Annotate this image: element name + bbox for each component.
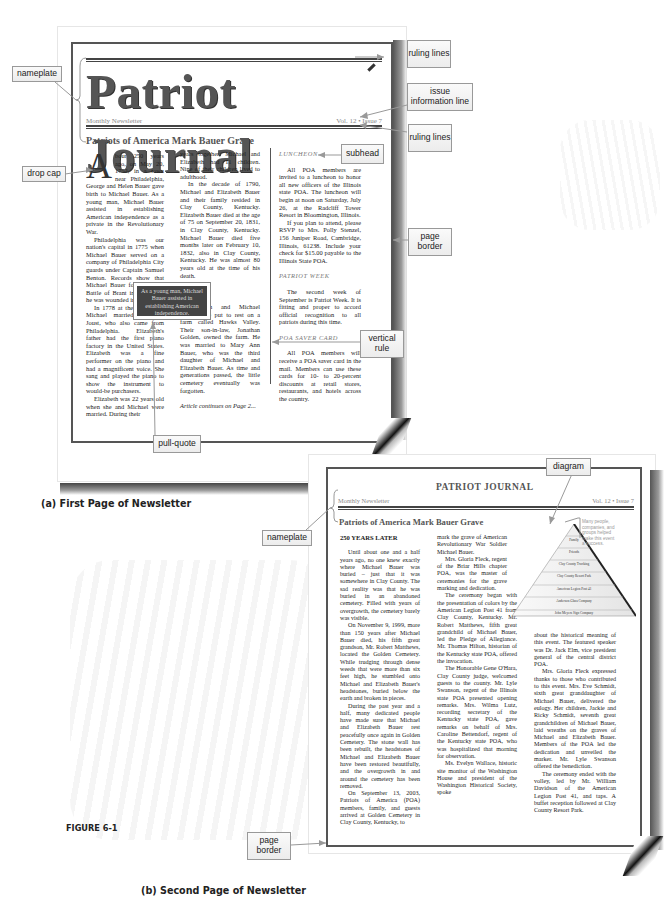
paragraph: About 250 years ago, on May 20, 1752, in… [86,152,164,236]
page-2-headline: Patriots of America Mark Bauer Grave [339,517,483,527]
callout-issue-information-line: issue information line [407,83,473,111]
paragraph: On September 13, 2003, Patriots of Ameri… [340,790,420,826]
callout-ruling-lines-top: ruling lines [407,40,451,68]
ruling-lines-bottom [86,125,382,129]
caption-first-page: (a) First Page of Newsletter [41,498,191,509]
paragraph: Mrs. Gloria Fleck, regent of the Briar H… [437,556,507,592]
page-2-shadow [650,470,664,850]
pyramid-labels: Family Friends Clay County Trucking Clay… [512,524,636,620]
paragraph: If you plan to attend, please RSVP to Mr… [279,219,361,265]
page-1-shadow [393,40,407,440]
page-2-column-3: about the historical meaning of this eve… [534,632,616,814]
paragraph: The second week of September is Patriot … [279,288,361,326]
page-2-title: PATRIOT JOURNAL [436,482,534,492]
figure-label: FIGURE 6-1 [66,823,118,833]
pyramid-level: Anderson Glass Company [512,599,636,603]
paragraph: mark the grave of American Revolutionary… [437,534,507,556]
pyramid-level: Friends [512,550,636,554]
callout-diagram: diagram [546,458,591,476]
paragraph: Until about one and a half years ago, no… [340,549,420,622]
issue-right: Vol. 12 • Issue 7 [336,117,382,125]
paragraph: years together, Michael and Elizabeth ha… [180,150,260,180]
page-1-column-2: years together, Michael and Elizabeth ha… [180,150,260,410]
paragraph: All POA members are invited to a luncheo… [279,166,361,219]
callout-pull-quote: pull-quote [153,435,201,453]
paragraph: On November 9, 1999, more than 150 years… [340,622,420,702]
issue-left: Monthly Newsletter [86,117,142,125]
pyramid-level: Clay County Trucking [512,562,636,566]
headline: Patriots of America Mark Bauer Grave [86,135,254,146]
pyramid-level: Clay County Resort Park [512,574,636,578]
pyramid-level: Family [512,538,636,542]
page-2-ruling-lines [338,506,634,510]
paragraph: about the historical meaning of this eve… [534,632,616,668]
page-1-column-3: LUNCHEON All POA members are invited to … [279,148,361,403]
pyramid-level: John Meyers Sign Company [512,611,636,615]
issue-left: Monthly Newsletter [338,497,389,504]
paragraph: In the decade of 1790, Michael and Eliza… [180,180,260,279]
callout-page-border: page border [408,228,452,256]
page-2-column-2: mark the grave of American Revolutionary… [437,534,517,797]
callout-nameplate-2: nameplate [262,530,312,546]
subhead-saver-card: POA SAVER CARD [279,334,361,342]
vertical-rule [270,148,271,384]
paragraph: Mrs. Gloria Fleck expressed thanks to th… [534,668,616,770]
drop-cap: A [86,152,112,180]
paragraph: All POA members will receive a POA saver… [279,349,361,402]
paragraph: The Honorable Gene O'Hara, Clay County j… [437,665,517,760]
callout-nameplate: nameplate [12,66,62,82]
subhead-patriot-week: PATRIOT WEEK [279,272,361,280]
callout-vertical-rule: vertical rule [360,330,404,358]
subhead-250-years: 250 YEARS LATER [340,534,420,541]
page-1-shadow [60,483,330,495]
background-flag-image [560,120,660,230]
paragraph: Ms. Evelyn Wallace, historic site monito… [437,760,517,796]
paragraph: The ceremony ended with the volley, led … [534,771,616,815]
callout-subhead: subhead [341,144,384,164]
continued-note: Article continues on Page 2... [180,402,260,410]
pull-quote: As a young man, Michael Bauer assisted i… [133,282,211,320]
issue-right: Vol. 12 • Issue 7 [592,497,634,504]
caption-second-page: (b) Second Page of Newsletter [141,885,306,896]
pyramid-level: American Legion Post 41 [512,587,636,591]
paragraph: During the past year and a half, many de… [340,703,420,791]
page-2-column-1: 250 YEARS LATER Until about one and a ha… [340,534,420,827]
callout-page-border-2: page border [247,832,291,860]
callout-drop-cap: drop cap [22,166,66,182]
nameplate-title: Patriot Journal [86,60,382,124]
callout-ruling-lines-bottom: ruling lines [408,124,452,152]
paragraph: Elizabeth was 22 years old when she and … [86,395,164,418]
paragraph: The ceremony began with the presentation… [437,592,517,665]
background-flag-image [70,560,330,840]
pull-quote-text: As a young man, Michael Bauer assisted i… [137,286,207,316]
